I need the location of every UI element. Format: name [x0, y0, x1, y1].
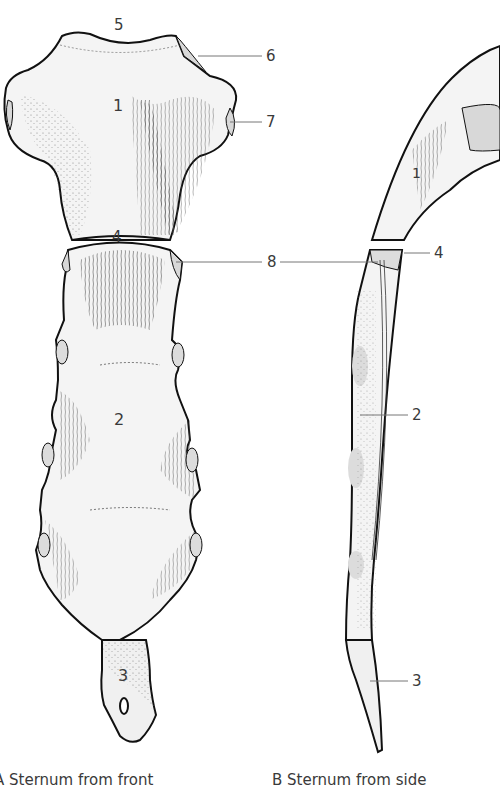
label-xiphoid-front: 3	[118, 668, 128, 684]
label-first-costal-notch: 7	[266, 115, 276, 130]
sternum-front-view	[4, 32, 236, 741]
caption-front-view: A Sternum from front	[0, 771, 153, 786]
caption-side-view: B Sternum from side	[272, 771, 426, 786]
label-manubrium-side: 1	[412, 166, 421, 180]
label-jugular-notch: 5	[114, 18, 124, 33]
label-manubrium-front: 1	[113, 98, 123, 114]
label-xiphoid-side: 3	[412, 674, 422, 689]
sternum-side-view	[346, 46, 500, 752]
label-body-side: 2	[412, 408, 422, 423]
sternum-illustration	[0, 0, 500, 786]
label-second-costal-notch: 8	[267, 255, 277, 270]
label-body-front: 2	[114, 412, 124, 428]
label-clavicular-notch: 6	[266, 49, 276, 64]
xiphoid-side	[346, 640, 382, 752]
label-sternal-angle-front: 4	[112, 230, 122, 245]
label-sternal-angle-side: 4	[434, 246, 444, 261]
